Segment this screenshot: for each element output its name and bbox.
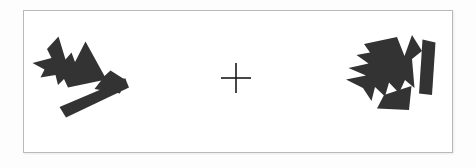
- right-shape-container[interactable]: right-abstract-polygon: [342, 30, 454, 130]
- right-shape-bar: [419, 40, 436, 96]
- right-shape-paths: [346, 35, 436, 110]
- fixation-cross-icon: [214, 56, 258, 100]
- left-shape-container[interactable]: left-abstract-polygon: [28, 33, 148, 133]
- left-shape-paths: [33, 37, 130, 118]
- stimulus-root: left-abstract-polygon fixation-cross: [0, 0, 476, 168]
- panel-inner: left-abstract-polygon fixation-cross: [24, 11, 452, 152]
- right-abstract-polygon-icon: [342, 30, 454, 130]
- left-abstract-polygon-icon: [28, 33, 148, 133]
- stimulus-panel: left-abstract-polygon fixation-cross: [23, 10, 453, 153]
- fixation-cross-container: fixation-cross: [214, 56, 258, 100]
